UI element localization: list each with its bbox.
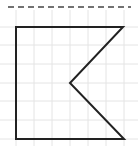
grid-diagram — [0, 0, 138, 146]
grid-lines — [0, 10, 138, 146]
